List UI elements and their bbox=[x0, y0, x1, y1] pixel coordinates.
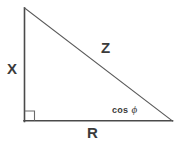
cos-text: cos bbox=[112, 105, 128, 115]
hypotenuse-line bbox=[25, 8, 173, 121]
label-cos-phi: cosϕ bbox=[112, 104, 137, 115]
impedance-triangle-figure: X Z R cosϕ bbox=[0, 0, 181, 144]
label-horizontal-leg-r: R bbox=[87, 125, 98, 140]
triangle-drawing bbox=[0, 0, 181, 144]
right-angle-marker-icon bbox=[25, 111, 35, 121]
phi-symbol: ϕ bbox=[131, 103, 137, 115]
label-vertical-leg-x: X bbox=[7, 61, 17, 76]
label-hypotenuse-z: Z bbox=[101, 40, 110, 55]
